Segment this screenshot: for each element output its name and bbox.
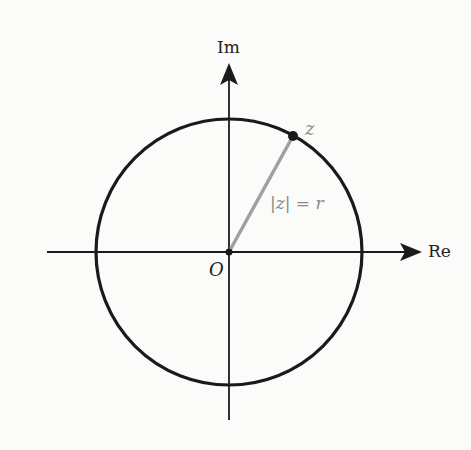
- imaginary-axis-label: Im: [217, 37, 240, 57]
- diagram-canvas: [0, 0, 471, 450]
- point-z: [288, 131, 298, 141]
- real-axis-label: Re: [428, 241, 451, 261]
- origin-label: O: [209, 259, 224, 280]
- origin-point: [226, 249, 233, 256]
- complex-plane-diagram: Im Re O z |z| = r: [0, 0, 471, 450]
- point-z-label: z: [305, 118, 314, 139]
- modulus-label: |z| = r: [270, 193, 324, 213]
